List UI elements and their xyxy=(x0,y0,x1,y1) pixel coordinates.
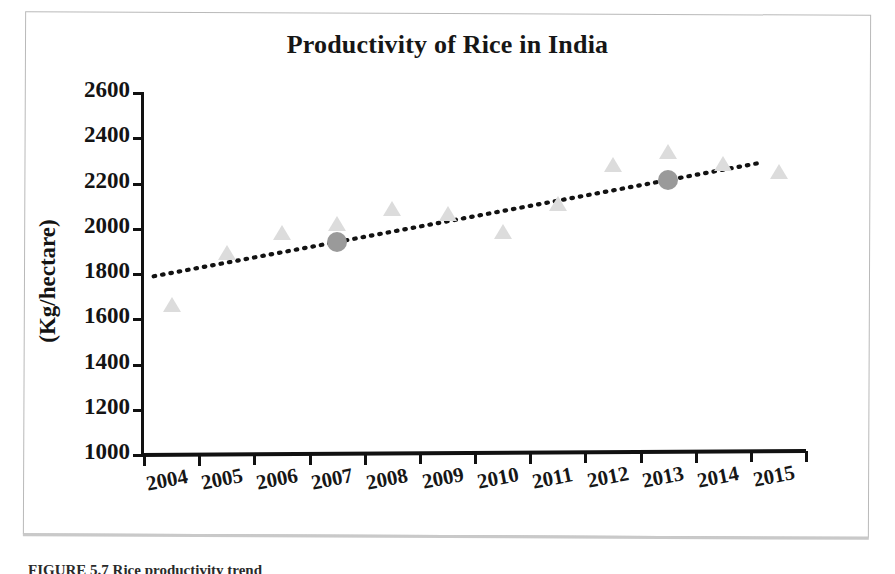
x-axis-tick-label: 2013 xyxy=(640,461,686,494)
data-point-triangle xyxy=(494,224,512,239)
y-axis-tick-label: 1200 xyxy=(40,394,130,420)
x-axis-tick-label: 2004 xyxy=(144,464,190,497)
y-axis-tick-label: 2200 xyxy=(40,168,130,194)
data-point-triangle xyxy=(218,245,236,260)
x-axis-tick xyxy=(750,451,753,462)
x-axis-tick xyxy=(474,453,477,464)
x-axis-tick xyxy=(419,453,422,464)
data-point-circle xyxy=(658,170,678,190)
data-point-triangle xyxy=(604,157,622,172)
x-axis-tick-label: 2008 xyxy=(364,462,410,495)
x-axis-tick-label: 2012 xyxy=(585,461,631,494)
y-axis-tick-label: 1400 xyxy=(40,349,130,375)
data-point-triangle xyxy=(714,156,732,171)
x-axis-tick xyxy=(640,452,643,463)
x-axis-tick xyxy=(253,454,256,465)
data-point-triangle xyxy=(770,164,788,179)
data-point-triangle xyxy=(273,225,291,240)
x-axis-tick-label: 2015 xyxy=(751,460,797,493)
data-point-triangle xyxy=(549,196,567,211)
x-axis-tick xyxy=(584,452,587,463)
y-axis-tick-label: 2400 xyxy=(40,122,130,148)
x-axis-tick xyxy=(695,452,698,463)
x-axis-tick-label: 2010 xyxy=(475,462,521,495)
y-axis-tick-labels: 100012001400160018002000220024002600 xyxy=(34,0,130,568)
x-axis-tick-label: 2005 xyxy=(199,463,245,496)
x-axis-tick-label: 2011 xyxy=(530,462,575,494)
x-axis-tick xyxy=(143,455,146,466)
data-point-triangle xyxy=(328,216,346,231)
x-axis-tick-label: 2009 xyxy=(420,462,466,495)
data-point-triangle xyxy=(439,206,457,221)
x-axis-tick xyxy=(364,454,367,465)
chart-title: Productivity of Rice in India xyxy=(0,30,895,60)
data-point-circle xyxy=(327,232,347,252)
data-point-triangle xyxy=(163,297,181,312)
x-axis-tick xyxy=(198,455,201,466)
y-axis-tick-label: 2000 xyxy=(40,213,130,239)
x-axis-tick xyxy=(805,451,808,462)
y-axis-tick-label: 1000 xyxy=(40,439,130,465)
y-axis-tick-label: 1800 xyxy=(40,258,130,284)
x-axis-tick-label: 2006 xyxy=(254,463,300,496)
y-axis-line xyxy=(141,92,144,456)
x-axis-tick-label: 2014 xyxy=(695,461,741,494)
y-axis-tick-label: 1600 xyxy=(40,303,130,329)
x-axis-tick xyxy=(309,454,312,465)
data-point-triangle xyxy=(383,201,401,216)
figure-caption: FIGURE 5.7 Rice productivity trend xyxy=(28,562,262,574)
data-point-triangle xyxy=(659,144,677,159)
y-axis-tick-label: 2600 xyxy=(40,77,130,103)
x-axis-tick xyxy=(529,453,532,464)
x-axis-tick-label: 2007 xyxy=(309,463,355,496)
